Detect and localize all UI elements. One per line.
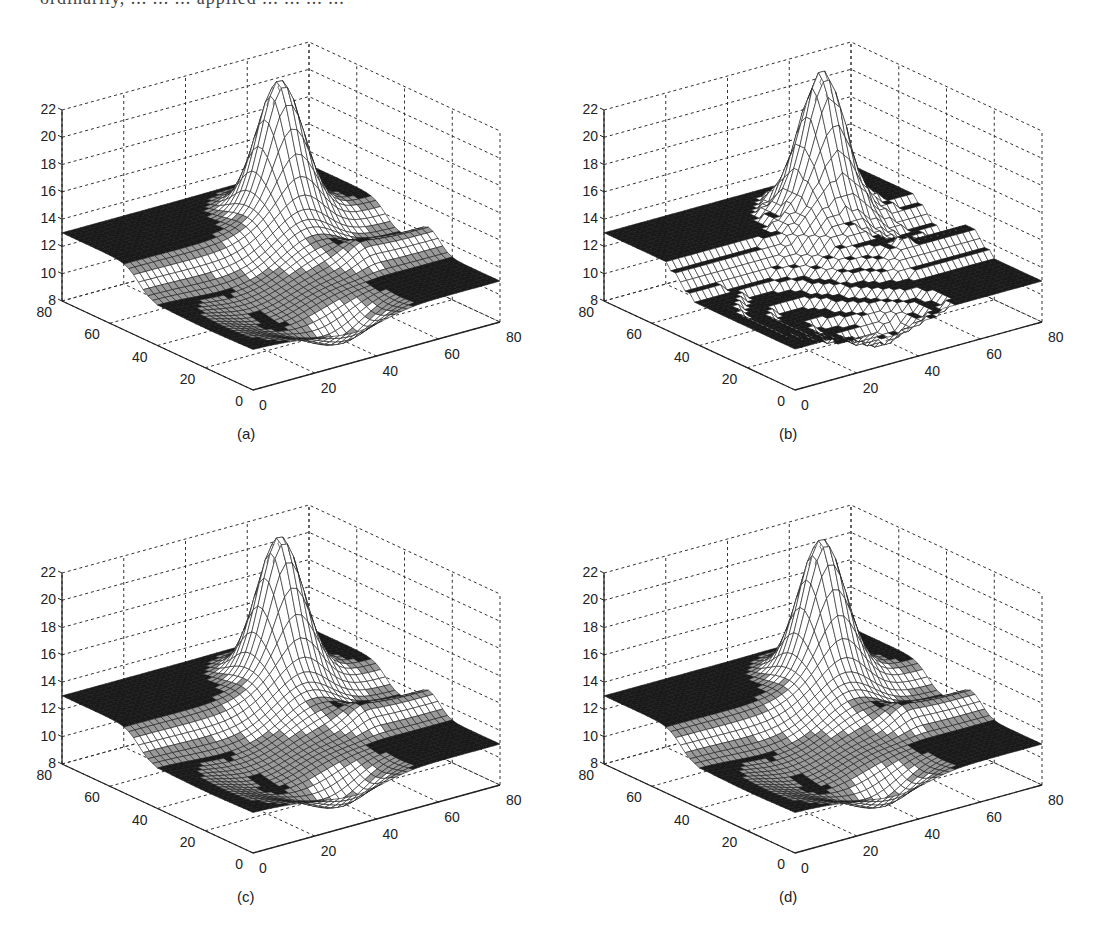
svg-text:16: 16 <box>582 183 598 199</box>
svg-text:40: 40 <box>132 812 148 828</box>
svg-text:40: 40 <box>383 826 399 842</box>
svg-text:80: 80 <box>36 767 52 783</box>
svg-text:60: 60 <box>986 346 1002 362</box>
svg-text:18: 18 <box>40 619 56 635</box>
svg-text:0: 0 <box>259 860 267 876</box>
svg-text:20: 20 <box>582 128 598 144</box>
svg-text:20: 20 <box>180 834 196 850</box>
svg-text:40: 40 <box>674 812 690 828</box>
svg-text:0: 0 <box>777 393 785 409</box>
svg-text:40: 40 <box>674 349 690 365</box>
surface-mesh <box>604 540 1042 813</box>
svg-text:10: 10 <box>582 265 598 281</box>
svg-text:10: 10 <box>40 265 56 281</box>
z-axis-ticks: 810121416182022 <box>40 564 62 771</box>
surface-mesh <box>62 81 500 350</box>
svg-text:80: 80 <box>1048 329 1064 345</box>
plot-canvas-c: 810121416182022020406080020406080 <box>0 463 547 936</box>
svg-text:14: 14 <box>40 210 56 226</box>
svg-text:22: 22 <box>40 101 56 117</box>
svg-text:18: 18 <box>40 156 56 172</box>
svg-text:20: 20 <box>40 128 56 144</box>
svg-text:40: 40 <box>383 363 399 379</box>
surface-plot-b: 810121416182022020406080020406080 (b) <box>542 0 1089 473</box>
svg-text:80: 80 <box>578 304 594 320</box>
svg-text:0: 0 <box>235 856 243 872</box>
surface-plot-d: 810121416182022020406080020406080 (d) <box>542 463 1089 936</box>
caption-c: (c) <box>237 888 255 905</box>
svg-text:40: 40 <box>925 826 941 842</box>
svg-text:0: 0 <box>259 397 267 413</box>
caption-b: (b) <box>779 425 797 442</box>
surface-plot-c: 810121416182022020406080020406080 (c) <box>0 463 547 936</box>
svg-text:20: 20 <box>722 371 738 387</box>
svg-text:40: 40 <box>925 363 941 379</box>
svg-text:12: 12 <box>40 700 56 716</box>
svg-text:20: 20 <box>863 843 879 859</box>
z-axis-ticks: 810121416182022 <box>582 564 604 771</box>
svg-text:80: 80 <box>506 329 522 345</box>
svg-text:20: 20 <box>180 371 196 387</box>
svg-text:0: 0 <box>235 393 243 409</box>
svg-text:0: 0 <box>801 860 809 876</box>
svg-text:18: 18 <box>582 156 598 172</box>
svg-text:0: 0 <box>801 397 809 413</box>
svg-text:0: 0 <box>777 856 785 872</box>
svg-text:20: 20 <box>582 591 598 607</box>
svg-text:16: 16 <box>582 646 598 662</box>
svg-text:20: 20 <box>863 380 879 396</box>
surface-mesh <box>604 71 1042 349</box>
svg-text:60: 60 <box>84 789 100 805</box>
svg-text:12: 12 <box>582 700 598 716</box>
svg-text:12: 12 <box>40 237 56 253</box>
svg-text:40: 40 <box>132 349 148 365</box>
svg-text:14: 14 <box>40 673 56 689</box>
svg-text:22: 22 <box>582 564 598 580</box>
svg-text:60: 60 <box>84 326 100 342</box>
surface-mesh <box>62 537 500 813</box>
svg-text:60: 60 <box>626 789 642 805</box>
caption-d: (d) <box>779 888 797 905</box>
surface-plot-a: 810121416182022020406080020406080 (a) <box>0 0 547 473</box>
svg-text:14: 14 <box>582 673 598 689</box>
svg-text:16: 16 <box>40 646 56 662</box>
z-axis-ticks: 810121416182022 <box>582 101 604 308</box>
svg-text:16: 16 <box>40 183 56 199</box>
svg-text:10: 10 <box>582 728 598 744</box>
svg-text:14: 14 <box>582 210 598 226</box>
svg-text:22: 22 <box>40 564 56 580</box>
svg-text:20: 20 <box>40 591 56 607</box>
svg-text:60: 60 <box>626 326 642 342</box>
svg-text:12: 12 <box>582 237 598 253</box>
svg-text:20: 20 <box>321 843 337 859</box>
svg-text:60: 60 <box>444 346 460 362</box>
svg-text:60: 60 <box>444 809 460 825</box>
svg-text:22: 22 <box>582 101 598 117</box>
caption-a: (a) <box>237 425 255 442</box>
svg-text:80: 80 <box>1048 792 1064 808</box>
plot-canvas-d: 810121416182022020406080020406080 <box>542 463 1089 936</box>
svg-text:80: 80 <box>578 767 594 783</box>
svg-text:20: 20 <box>722 834 738 850</box>
plot-canvas-b: 810121416182022020406080020406080 <box>542 0 1089 473</box>
svg-text:60: 60 <box>986 809 1002 825</box>
svg-text:20: 20 <box>321 380 337 396</box>
svg-text:18: 18 <box>582 619 598 635</box>
svg-text:80: 80 <box>36 304 52 320</box>
svg-text:80: 80 <box>506 792 522 808</box>
z-axis-ticks: 810121416182022 <box>40 101 62 308</box>
plot-canvas-a: 810121416182022020406080020406080 <box>0 0 547 473</box>
svg-text:10: 10 <box>40 728 56 744</box>
